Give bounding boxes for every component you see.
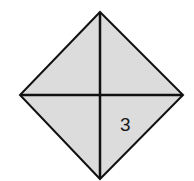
region-label-bottom-right: 3	[120, 114, 131, 135]
diamond-diagram: 3	[0, 0, 194, 181]
